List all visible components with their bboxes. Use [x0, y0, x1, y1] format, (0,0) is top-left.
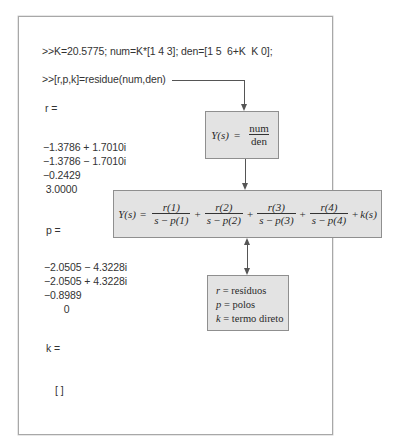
- r-value-1: −1.3786 + 1.7010i: [43, 141, 126, 153]
- transfer-function-box: Y(s) = num den: [205, 111, 279, 159]
- k-label: k =: [46, 342, 60, 354]
- p-value-4: 0: [44, 303, 69, 315]
- term-1-minus: −: [161, 214, 167, 226]
- command-line-2: >>[r,p,k]=residue(num,den): [42, 73, 166, 85]
- p-value-2: −2.0505 + 4.3228i: [44, 275, 127, 287]
- plus-3: +: [300, 208, 306, 220]
- term-3-pole: p(3): [275, 214, 293, 226]
- term-2-minus: −: [214, 214, 220, 226]
- term-4-pole: p(4): [328, 214, 346, 226]
- term-1-pole: p(1): [170, 214, 188, 226]
- arrow-down-icon: [241, 104, 247, 111]
- connector-vertical: [244, 80, 245, 105]
- p-value-3: −0.8989: [44, 289, 82, 301]
- legend-text-k: = termo direto: [221, 313, 284, 324]
- arrow-down-icon: [244, 268, 250, 275]
- legend-item-poles: p = polos: [216, 298, 288, 312]
- term-2-numerator: r(2): [213, 201, 234, 213]
- connector-horizontal: [172, 80, 245, 81]
- term-2-pole: p(2): [223, 214, 241, 226]
- expansion-equals: =: [140, 208, 146, 220]
- arrow-down-icon: [242, 183, 248, 190]
- term-4-minus: −: [319, 214, 325, 226]
- term-3-numerator: r(3): [266, 201, 287, 213]
- connector-vertical-3: [247, 244, 248, 269]
- legend-item-residues: r = resíduos: [216, 284, 288, 298]
- legend-text-p: = polos: [221, 299, 255, 310]
- legend-box: r = resíduos p = polos k = termo direto: [207, 275, 289, 331]
- direct-term: k(s): [360, 208, 377, 220]
- term-3: r(3) s − p(3): [257, 201, 295, 227]
- partial-fraction-box: Y(s) = r(1) s − p(1) + r(2) s − p(2) + r…: [113, 190, 382, 238]
- r-value-4: 3.0000: [43, 183, 77, 195]
- term-1-numerator: r(1): [161, 201, 182, 213]
- term-3-s: s: [259, 214, 263, 226]
- p-label: p =: [46, 224, 61, 236]
- connector-vertical-2: [245, 159, 246, 184]
- plus-2: +: [247, 208, 253, 220]
- k-value: [ ]: [55, 384, 63, 396]
- term-4: r(4) s − p(4): [310, 201, 348, 227]
- transfer-lhs: Y(s): [211, 129, 229, 141]
- p-value-1: −2.0505 − 4.3228i: [44, 261, 127, 273]
- term-1: r(1) s − p(1): [152, 201, 190, 227]
- r-label: r =: [45, 102, 57, 114]
- term-3-minus: −: [266, 214, 272, 226]
- term-4-s: s: [312, 214, 316, 226]
- plus-4: +: [352, 208, 358, 220]
- term-2: r(2) s − p(2): [205, 201, 243, 227]
- term-1-s: s: [154, 214, 158, 226]
- plus-1: +: [194, 208, 200, 220]
- transfer-denominator: den: [249, 134, 269, 148]
- legend-text-r: = resíduos: [220, 285, 266, 296]
- transfer-fraction: num den: [247, 122, 271, 148]
- r-value-3: −0.2429: [43, 169, 81, 181]
- term-4-numerator: r(4): [318, 201, 339, 213]
- command-line-1: >>K=20.5775; num=K*[1 4 3]; den=[1 5 6+K…: [42, 45, 272, 57]
- transfer-numerator: num: [247, 122, 271, 134]
- r-value-2: −1.3786 − 1.7010i: [43, 155, 126, 167]
- transfer-equals: =: [234, 129, 240, 141]
- term-2-s: s: [207, 214, 211, 226]
- expansion-lhs: Y(s): [118, 208, 136, 220]
- legend-item-direct-term: k = termo direto: [216, 312, 288, 326]
